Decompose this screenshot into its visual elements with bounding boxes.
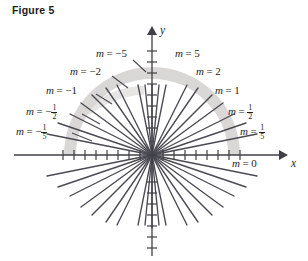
slope-label-neg-2-var: m bbox=[70, 65, 78, 77]
fraction-one-half-pos: 12 bbox=[247, 104, 253, 122]
slope-label-pos-1-eq: = bbox=[225, 84, 231, 96]
fraction-one-fifth-neg: 15 bbox=[41, 124, 47, 142]
slope-label-pos-2: m=2 bbox=[196, 66, 221, 77]
y-axis bbox=[147, 26, 157, 256]
fraction-denominator: 5 bbox=[41, 133, 47, 141]
slope-label-neg-one-half-var: m bbox=[26, 105, 34, 117]
slope-label-pos-1-value: 1 bbox=[234, 84, 240, 96]
slope-label-neg-1-eq: = bbox=[56, 84, 62, 96]
slope-label-pos-one-fifth: m=15 bbox=[240, 124, 265, 142]
slope-label-pos-2-var: m bbox=[196, 65, 204, 77]
x-axis-arrowhead bbox=[279, 150, 288, 160]
slope-label-neg-2-value: −2 bbox=[89, 65, 101, 77]
slope-label-neg-one-fifth-eq: = bbox=[26, 125, 32, 137]
slope-label-pos-1: m=1 bbox=[215, 85, 240, 96]
y-axis-label: y bbox=[160, 24, 165, 36]
slope-label-neg-one-half-eq: = bbox=[36, 105, 42, 117]
slope-label-pos-one-fifth-var: m bbox=[240, 125, 248, 137]
fraction-one-half-neg: 12 bbox=[51, 104, 57, 122]
slope-label-pos-2-eq: = bbox=[206, 65, 212, 77]
slope-label-neg-5-value: −5 bbox=[115, 47, 127, 59]
slope-label-neg-5-var: m bbox=[96, 47, 104, 59]
fraction-one-fifth-pos: 15 bbox=[259, 124, 265, 142]
slope-label-neg-1: m=−1 bbox=[46, 85, 77, 96]
slope-label-neg-5-eq: = bbox=[106, 47, 112, 59]
slope-label-neg-2: m=−2 bbox=[70, 66, 101, 77]
x-axis-label: x bbox=[291, 157, 296, 169]
slope-label-pos-one-half-var: m bbox=[228, 105, 236, 117]
slope-label-pos-5-eq: = bbox=[185, 47, 191, 59]
slope-label-neg-1-var: m bbox=[46, 84, 54, 96]
slope-label-zero: m=0 bbox=[232, 158, 257, 169]
slope-label-neg-2-eq: = bbox=[80, 65, 86, 77]
fraction-denominator: 5 bbox=[259, 133, 265, 141]
slope-label-neg-1-value: −1 bbox=[65, 84, 77, 96]
figure-container: Figure 5 bbox=[0, 0, 308, 261]
slope-label-neg-one-fifth-var: m bbox=[16, 125, 24, 137]
slope-label-pos-one-half: m=12 bbox=[228, 104, 253, 122]
slope-label-pos-5-value: 5 bbox=[194, 47, 200, 59]
slope-label-pos-2-value: 2 bbox=[215, 65, 221, 77]
slope-label-zero-eq: = bbox=[242, 157, 248, 169]
slope-label-zero-value: 0 bbox=[251, 157, 257, 169]
slope-label-pos-1-var: m bbox=[215, 84, 223, 96]
fraction-denominator: 2 bbox=[51, 113, 57, 121]
slope-label-zero-var: m bbox=[232, 157, 240, 169]
slope-label-pos-one-fifth-eq: = bbox=[250, 125, 256, 137]
y-axis-arrowhead bbox=[147, 26, 157, 35]
slope-label-pos-5: m=5 bbox=[175, 48, 200, 59]
slope-label-pos-one-half-eq: = bbox=[238, 105, 244, 117]
slope-label-neg-one-half: m=−12 bbox=[26, 104, 57, 122]
slope-label-neg-5: m=−5 bbox=[96, 48, 127, 59]
slope-label-pos-5-var: m bbox=[175, 47, 183, 59]
slope-label-neg-one-fifth: m=−15 bbox=[16, 124, 47, 142]
fraction-denominator: 2 bbox=[247, 113, 253, 121]
